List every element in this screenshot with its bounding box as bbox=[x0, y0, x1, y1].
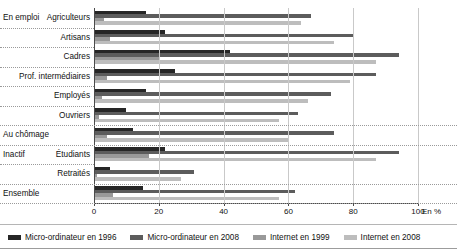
category-label: Étudiants bbox=[56, 150, 94, 159]
bar bbox=[94, 138, 288, 142]
category-separator bbox=[0, 86, 94, 87]
section-separator bbox=[0, 125, 457, 126]
legend-item[interactable]: Micro-ordinateur en 2008 bbox=[130, 233, 238, 242]
section-label: Au chômage bbox=[3, 130, 49, 139]
bar bbox=[94, 21, 301, 25]
legend-swatch-icon bbox=[344, 235, 357, 240]
category-label: Agriculteurs bbox=[47, 13, 94, 22]
bar bbox=[94, 170, 194, 174]
bar bbox=[94, 197, 279, 201]
bar bbox=[94, 119, 279, 123]
gridline bbox=[288, 8, 289, 203]
category-separator bbox=[0, 28, 94, 29]
section-separator-bottom bbox=[0, 203, 457, 204]
legend-divider-top bbox=[0, 224, 457, 225]
legend-swatch-icon bbox=[8, 235, 21, 240]
category-label: Artisans bbox=[60, 33, 94, 42]
category-label: Prof. intermédiaires bbox=[19, 72, 94, 81]
bar bbox=[94, 158, 376, 162]
bar bbox=[94, 131, 334, 135]
axis-tick-label: 80 bbox=[349, 207, 358, 216]
category-label-row: Employés bbox=[0, 86, 94, 106]
gridline bbox=[353, 8, 354, 203]
bar bbox=[94, 190, 295, 194]
gridline bbox=[224, 8, 225, 203]
y-axis-line bbox=[94, 8, 95, 204]
category-separator bbox=[0, 106, 94, 107]
category-label: Retraités bbox=[57, 169, 94, 178]
section-label: Ensemble bbox=[3, 189, 39, 198]
bar bbox=[94, 80, 350, 84]
legend-item[interactable]: Internet en 1999 bbox=[253, 233, 330, 242]
legend-swatch-icon bbox=[130, 235, 143, 240]
legend-swatch-icon bbox=[253, 235, 266, 240]
section-label: Inactif bbox=[3, 150, 25, 159]
category-separator bbox=[0, 47, 94, 48]
axis-unit-label: En % bbox=[422, 207, 441, 216]
plot-area bbox=[94, 8, 418, 203]
legend-label: Micro-ordinateur en 1996 bbox=[25, 233, 116, 242]
category-label: Ouvriers bbox=[59, 111, 94, 120]
bar bbox=[94, 41, 334, 45]
bar bbox=[94, 177, 181, 181]
section-label: En emploi bbox=[3, 13, 39, 22]
legend-label: Internet en 1999 bbox=[270, 233, 330, 242]
category-label-row: Ouvriers bbox=[0, 106, 94, 126]
gridline bbox=[418, 8, 419, 203]
bar bbox=[94, 73, 376, 77]
legend-item[interactable]: Internet en 2008 bbox=[344, 233, 421, 242]
category-label-row: Retraités bbox=[0, 164, 94, 184]
section-separator bbox=[0, 145, 457, 146]
axis-tick-label: 0 bbox=[92, 207, 96, 216]
legend-label: Micro-ordinateur en 2008 bbox=[147, 233, 238, 242]
section-separator bbox=[0, 184, 457, 185]
legend-divider-bottom bbox=[0, 248, 457, 249]
category-label: Cadres bbox=[64, 52, 94, 61]
legend-label: Internet en 2008 bbox=[361, 233, 421, 242]
bar bbox=[94, 99, 308, 103]
axis-tick-label: 60 bbox=[284, 207, 293, 216]
category-separator bbox=[0, 164, 94, 165]
chart-legend: Micro-ordinateur en 1996Micro-ordinateur… bbox=[8, 229, 449, 245]
category-label-row: Cadres bbox=[0, 47, 94, 67]
category-label-row: Artisans bbox=[0, 28, 94, 48]
gridline bbox=[159, 8, 160, 203]
axis-tick-label: 40 bbox=[219, 207, 228, 216]
category-label-row: Prof. intermédiaires bbox=[0, 67, 94, 87]
bar bbox=[94, 92, 331, 96]
bar bbox=[94, 60, 376, 64]
legend-item[interactable]: Micro-ordinateur en 1996 bbox=[8, 233, 116, 242]
bar bbox=[94, 112, 298, 116]
category-separator bbox=[0, 67, 94, 68]
category-label: Employés bbox=[54, 91, 94, 100]
axis-tick-label: 20 bbox=[154, 207, 163, 216]
bar bbox=[94, 14, 311, 18]
chart-figure: AgriculteursArtisansCadresProf. interméd… bbox=[0, 0, 457, 251]
